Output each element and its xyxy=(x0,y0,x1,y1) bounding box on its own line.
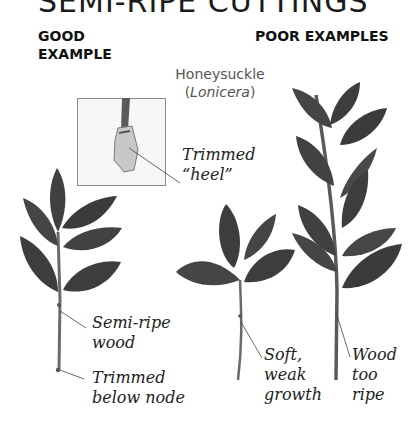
label-trimmed-heel-line2: “heel” xyxy=(182,165,256,185)
label-too-ripe-line1: Wood xyxy=(352,345,397,365)
heel-detail-icon xyxy=(114,98,180,183)
label-semi-ripe-wood: Semi-ripe wood xyxy=(92,313,171,353)
too-ripe-cutting-icon xyxy=(292,82,402,380)
label-semi-ripe-line1: Semi-ripe xyxy=(92,313,171,333)
label-trimmed-heel: Trimmed “heel” xyxy=(182,145,256,185)
label-trimmed-node-line1: Trimmed xyxy=(92,368,185,388)
label-soft-weak-growth: Soft, weak growth xyxy=(264,345,322,405)
trimmed-node-leader-line xyxy=(60,370,84,379)
label-wood-too-ripe: Wood too ripe xyxy=(352,345,397,405)
label-trimmed-heel-line1: Trimmed xyxy=(182,145,256,165)
label-trimmed-node-line2: below node xyxy=(92,388,185,408)
soft-growth-leader-line xyxy=(241,322,262,358)
label-soft-line3: growth xyxy=(264,385,322,405)
label-too-ripe-line2: too xyxy=(352,365,397,385)
label-soft-line1: Soft, xyxy=(264,345,322,365)
semi-ripe-leader-line xyxy=(60,311,86,328)
label-semi-ripe-line2: wood xyxy=(92,333,171,353)
label-soft-line2: weak xyxy=(264,365,322,385)
label-too-ripe-line3: ripe xyxy=(352,385,397,405)
label-trimmed-below-node: Trimmed below node xyxy=(92,368,185,408)
